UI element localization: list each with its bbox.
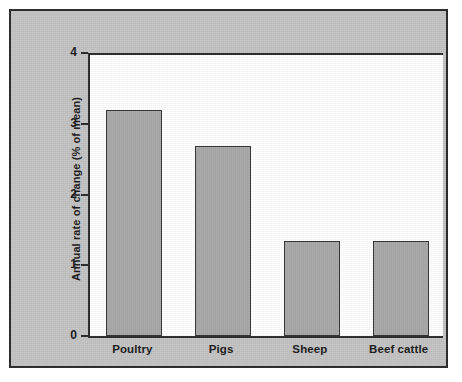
y-tick-mark-0 (81, 335, 88, 337)
y-tick-mark-3 (81, 123, 88, 125)
y-axis-title: Annual rate of change (% of mean) (70, 82, 82, 297)
y-tick-mark-4 (81, 52, 88, 54)
figure-panel: 01234 Annual rate of change (% of mean) … (9, 9, 448, 368)
chart-screenshot: 01234 Annual rate of change (% of mean) … (0, 0, 462, 382)
y-tick-label-0: 0 (51, 329, 77, 341)
y-tick-mark-1 (81, 264, 88, 266)
x-axis-label-beef-cattle: Beef cattle (339, 343, 459, 355)
y-tick-label-4: 4 (51, 46, 77, 58)
y-tick-mark-2 (81, 194, 88, 196)
